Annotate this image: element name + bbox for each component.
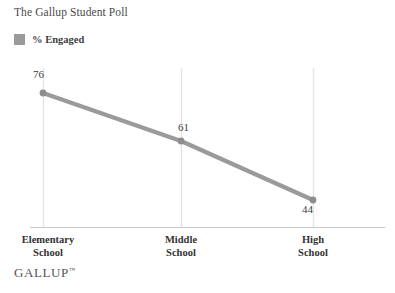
x-axis-category-line: Elementary <box>0 234 108 247</box>
x-axis-category-line: Middle <box>121 234 241 247</box>
gridlines <box>44 68 314 227</box>
x-axis-category-label: High School <box>253 234 373 259</box>
gallup-logo: GALLUP™ <box>14 265 75 281</box>
x-axis-category-line: School <box>253 247 373 260</box>
chart-page: The Gallup Student Poll % Engaged 76 <box>0 0 395 293</box>
plot-area: 76 61 44 Elementary School Middle School… <box>0 0 395 293</box>
data-value-label: 76 <box>33 68 44 80</box>
x-axis-category-label: Middle School <box>121 234 241 259</box>
gallup-logo-text: GALLUP <box>14 265 69 280</box>
x-axis-category-line: School <box>121 247 241 260</box>
x-axis-category-line: High <box>253 234 373 247</box>
data-value-label: 61 <box>178 121 189 133</box>
trademark-icon: ™ <box>69 267 75 273</box>
data-value-label: 44 <box>302 203 313 215</box>
series-line-engaged <box>43 93 313 200</box>
x-axis-category-line: School <box>0 247 108 260</box>
x-axis-category-label: Elementary School <box>0 234 108 259</box>
